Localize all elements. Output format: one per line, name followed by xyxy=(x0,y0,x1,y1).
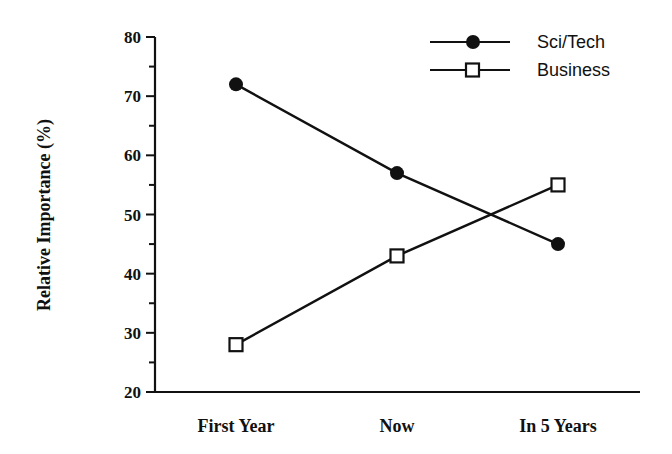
x-category-label: In 5 Years xyxy=(519,416,596,436)
data-point-square xyxy=(230,338,243,351)
data-point-circle xyxy=(551,237,565,251)
data-point-circle xyxy=(390,166,404,180)
y-tick-label: 50 xyxy=(124,206,141,225)
y-axis-ticks: 20304050607080 xyxy=(124,28,155,402)
y-axis-title: Relative Importance (%) xyxy=(34,119,55,311)
y-tick-label: 30 xyxy=(124,324,141,343)
axes xyxy=(154,37,640,392)
y-tick-label: 20 xyxy=(124,383,141,402)
data-point-circle xyxy=(229,77,243,91)
legend-label: Business xyxy=(537,60,610,80)
series-lines xyxy=(229,77,565,351)
x-category-label: Now xyxy=(380,416,415,436)
series-line-sci-tech xyxy=(236,84,558,244)
data-point-square xyxy=(391,249,404,262)
y-tick-label: 80 xyxy=(124,28,141,47)
legend-circle-icon xyxy=(466,35,480,49)
legend: Sci/TechBusiness xyxy=(430,32,610,80)
series-line-business xyxy=(236,185,558,345)
y-tick-label: 70 xyxy=(124,87,141,106)
x-category-label: First Year xyxy=(198,416,275,436)
y-tick-label: 60 xyxy=(124,146,141,165)
legend-label: Sci/Tech xyxy=(537,32,605,52)
line-chart: Relative Importance (%) 20304050607080 F… xyxy=(0,0,672,454)
y-axis-title-text: Relative Importance (%) xyxy=(34,119,55,311)
x-axis-labels: First YearNowIn 5 Years xyxy=(198,416,597,436)
y-tick-label: 40 xyxy=(124,265,141,284)
legend-square-icon xyxy=(466,64,479,77)
data-point-square xyxy=(552,178,565,191)
